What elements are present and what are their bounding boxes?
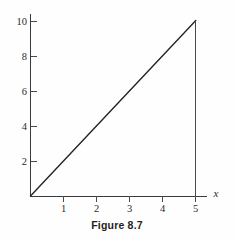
y-tick-label-4: 4 [22, 121, 28, 132]
y-tick-labels: 10 8 6 4 2 [17, 16, 28, 167]
x-tick-label-4: 4 [160, 203, 166, 214]
series-line-linear [31, 21, 196, 197]
x-tick-label-1: 1 [61, 203, 66, 214]
x-tick-labels: 1 2 3 4 5 [61, 203, 198, 214]
x-tick-label-3: 3 [127, 203, 132, 214]
figure-caption: Figure 8.7 [0, 219, 234, 231]
figure-container: 10 8 6 4 2 1 2 3 4 5 x Figure 8.7 [0, 0, 234, 241]
x-tick-label-2: 2 [94, 203, 99, 214]
y-tick-label-2: 2 [22, 156, 27, 167]
x-tick-label-5: 5 [193, 203, 198, 214]
y-tick-label-6: 6 [22, 86, 27, 97]
x-axis-label: x [213, 187, 219, 199]
y-tick-label-8: 8 [22, 51, 27, 62]
y-tick-label-10: 10 [17, 16, 28, 27]
y-tick-marks [31, 22, 37, 162]
plot-area: 10 8 6 4 2 1 2 3 4 5 x [0, 0, 234, 241]
